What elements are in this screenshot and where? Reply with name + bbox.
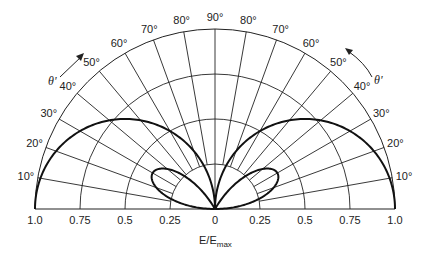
radial-tick-label: 0.25: [159, 214, 180, 226]
angle-tick-label: 10°: [396, 170, 413, 182]
spoke: [254, 119, 371, 187]
angle-tick-label: 20°: [26, 137, 43, 149]
angle-tick-label: 20°: [387, 137, 404, 149]
x-axis-label: E/Emax: [199, 234, 232, 249]
spoke: [38, 178, 171, 201]
spoke: [153, 40, 199, 167]
outer-lobe-curve: [35, 119, 215, 209]
radial-tick-label: 0.75: [69, 214, 90, 226]
spoke: [238, 53, 306, 170]
radial-tick-label: 1.0: [387, 214, 402, 226]
radial-tick-label: 0.75: [339, 214, 360, 226]
angle-tick-label: 90°: [207, 11, 224, 23]
inner-lobe-curve: [152, 169, 215, 210]
radial-tick-label: 0.5: [297, 214, 312, 226]
polar-radiation-pattern-chart: 10°10°20°20°30°30°40°40°50°50°60°60°70°7…: [0, 0, 431, 255]
angle-tick-label: 60°: [303, 37, 320, 49]
angle-tick-label: 70°: [141, 23, 158, 35]
angle-tick-label: 10°: [18, 170, 35, 182]
radial-tick-label: 0.5: [117, 214, 132, 226]
angle-tick-label: 80°: [240, 14, 257, 26]
radial-tick-label: 0: [212, 214, 218, 226]
radial-tick-label: 0.25: [249, 214, 270, 226]
spoke: [125, 53, 193, 170]
theta-label-left: θ': [48, 74, 57, 88]
angle-tick-label: 50°: [83, 56, 100, 68]
angle-tick-label: 30°: [40, 107, 57, 119]
angle-tick-label: 40°: [60, 80, 77, 92]
angle-tick-label: 70°: [272, 23, 289, 35]
inner-lobe-curve: [215, 169, 278, 210]
angle-tick-label: 50°: [330, 56, 347, 68]
angle-tick-label: 40°: [354, 80, 371, 92]
radial-tick-label: 1.0: [27, 214, 42, 226]
spoke: [259, 178, 392, 201]
angle-tick-label: 80°: [173, 14, 190, 26]
outer-lobe-curve: [215, 119, 395, 209]
angle-tick-label: 60°: [111, 37, 128, 49]
theta-label-right: θ': [374, 73, 383, 87]
angle-tick-label: 30°: [373, 107, 390, 119]
spoke: [230, 40, 276, 167]
spoke: [59, 119, 176, 187]
